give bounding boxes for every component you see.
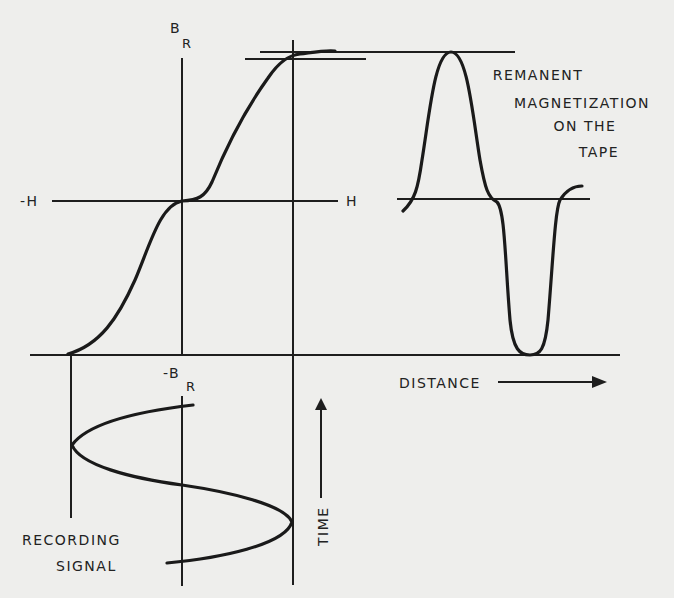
br-label: B bbox=[170, 20, 181, 36]
distance-arrow-head-icon bbox=[592, 376, 607, 388]
neg-h-label: -H bbox=[20, 193, 39, 209]
recording-label-line1: RECORDING bbox=[22, 532, 121, 548]
remanent-label-line4: TAPE bbox=[578, 144, 619, 160]
diagram-canvas: B R -H H -B R REMANENT MAGNETIZATION ON … bbox=[0, 0, 674, 598]
neg-br-label: -B bbox=[163, 365, 180, 381]
diagram-svg: B R -H H -B R REMANENT MAGNETIZATION ON … bbox=[0, 0, 674, 598]
remanent-label-line2: MAGNETIZATION bbox=[514, 95, 650, 111]
recording-signal-panel bbox=[71, 355, 327, 586]
time-label: TIME bbox=[315, 506, 331, 547]
neg-br-label-subscript: R bbox=[186, 379, 197, 394]
remanent-label-line3: ON THE bbox=[554, 118, 617, 134]
remanent-label-line1: REMANENT bbox=[493, 67, 584, 83]
distance-label: DISTANCE bbox=[399, 375, 481, 391]
transfer-curve bbox=[68, 51, 335, 354]
br-label-subscript: R bbox=[182, 36, 193, 51]
pos-h-label: H bbox=[346, 193, 358, 209]
recording-label-line2: SIGNAL bbox=[56, 558, 117, 574]
transfer-curve-panel bbox=[30, 40, 620, 585]
time-arrow-head-icon bbox=[315, 398, 327, 410]
